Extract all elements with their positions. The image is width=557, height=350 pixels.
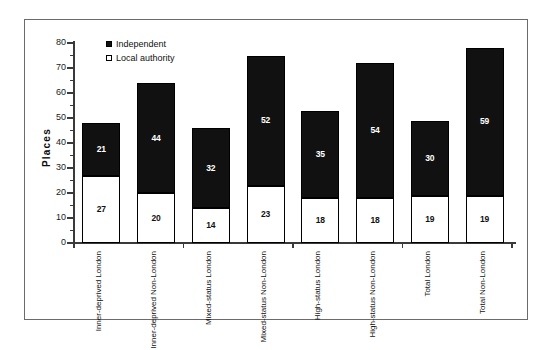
x-axis-label-line: London — [423, 250, 432, 279]
y-tick-major — [67, 67, 74, 69]
x-axis-label-line: London — [94, 250, 103, 279]
bar-segment-independent[interactable]: 54 — [356, 63, 394, 198]
x-axis-label: Mixed-statusLondon — [204, 250, 218, 320]
bar-value-label: 30 — [425, 154, 434, 163]
bar-segment-independent[interactable]: 30 — [411, 121, 449, 196]
y-tick-label: 80 — [42, 38, 66, 47]
bar-group[interactable]: 1835 — [301, 111, 339, 244]
x-axis-label-line: Non-London — [149, 250, 158, 296]
y-tick-major — [67, 92, 74, 94]
x-tick — [73, 243, 75, 248]
x-tick — [183, 243, 185, 248]
bar-value-label: 59 — [480, 117, 489, 126]
x-tick — [292, 243, 294, 248]
x-axis-label: High-statusNon-London — [368, 250, 382, 320]
bar-segment-local-authority[interactable]: 19 — [466, 196, 504, 244]
y-tick-label-wrap: 10 — [38, 213, 66, 223]
y-tick-label: 60 — [42, 88, 66, 97]
x-axis-label-line: London — [204, 250, 213, 279]
y-tick-label: 30 — [42, 163, 66, 172]
x-axis-label: High-statusLondon — [313, 250, 327, 320]
bar-segment-local-authority[interactable]: 18 — [356, 198, 394, 243]
y-tick-label: 0 — [42, 238, 66, 247]
bar-group[interactable]: 2352 — [247, 56, 285, 244]
bar-segment-local-authority[interactable]: 27 — [82, 176, 120, 244]
bar-group[interactable]: 2044 — [137, 83, 175, 243]
x-axis-label-line: Total — [478, 296, 487, 315]
x-axis-label-line: Mixed-status — [259, 296, 268, 343]
x-axis-label-line: High-status — [368, 296, 377, 338]
bar-value-label: 27 — [97, 205, 106, 214]
bar-value-label: 44 — [151, 134, 160, 143]
bar-group[interactable]: 2721 — [82, 123, 120, 243]
x-axis-label-line: Inner-deprived — [94, 279, 103, 333]
x-axis-label: Inner-deprivedLondon — [94, 250, 108, 320]
y-tick-label: 50 — [42, 113, 66, 122]
bar-value-label: 54 — [370, 126, 379, 135]
x-axis-label: Inner-deprivedNon-London — [149, 250, 163, 320]
x-axis-label: Mixed-statusNon-London — [259, 250, 273, 320]
bar-value-label: 20 — [151, 214, 160, 223]
plot-area: 27212044143223521835185419301959 — [74, 43, 512, 243]
y-tick-major — [67, 142, 74, 144]
y-tick-label-wrap: 0 — [38, 238, 66, 248]
y-tick-major — [67, 192, 74, 194]
bar-group[interactable]: 1959 — [466, 48, 504, 243]
y-tick-label: 20 — [42, 188, 66, 197]
x-axis-label: TotalNon-London — [478, 250, 492, 320]
y-tick-label-wrap: 40 — [38, 138, 66, 148]
x-axis-label-line: Total — [423, 279, 432, 298]
x-tick — [402, 243, 404, 248]
y-tick-label-wrap: 80 — [38, 38, 66, 48]
bar-segment-local-authority[interactable]: 19 — [411, 196, 449, 244]
x-axis-label-line: Non-London — [478, 250, 487, 296]
bar-value-label: 19 — [480, 215, 489, 224]
bar-value-label: 19 — [425, 215, 434, 224]
y-tick-label-wrap: 70 — [38, 63, 66, 73]
x-axis-label-line: High-status — [313, 279, 322, 321]
bar-segment-local-authority[interactable]: 20 — [137, 193, 175, 243]
y-tick-label-wrap: 50 — [38, 113, 66, 123]
bar-value-label: 35 — [316, 150, 325, 159]
bar-value-label: 32 — [206, 164, 215, 173]
y-tick-label: 40 — [42, 138, 66, 147]
x-axis-label-line: Non-London — [368, 250, 377, 296]
bar-value-label: 52 — [261, 116, 270, 125]
bar-value-label: 23 — [261, 210, 270, 219]
x-axis-label-line: Mixed-status — [204, 279, 213, 326]
bar-value-label: 18 — [370, 216, 379, 225]
bar-value-label: 18 — [316, 216, 325, 225]
bar-group[interactable]: 1432 — [192, 128, 230, 243]
bar-group[interactable]: 1854 — [356, 63, 394, 243]
y-tick-label-wrap: 30 — [38, 163, 66, 173]
x-tick — [511, 243, 513, 248]
bar-segment-independent[interactable]: 59 — [466, 48, 504, 196]
y-tick-major — [67, 42, 74, 44]
bar-segment-local-authority[interactable]: 18 — [301, 198, 339, 243]
bar-value-label: 14 — [206, 221, 215, 230]
bar-value-label: 21 — [97, 145, 106, 154]
y-tick-label-wrap: 20 — [38, 188, 66, 198]
bar-group[interactable]: 1930 — [411, 121, 449, 244]
bar-segment-independent[interactable]: 52 — [247, 56, 285, 186]
x-axis-label-line: London — [313, 250, 322, 279]
bar-segment-local-authority[interactable]: 23 — [247, 186, 285, 244]
bar-segment-local-authority[interactable]: 14 — [192, 208, 230, 243]
y-tick-major — [67, 217, 74, 219]
y-tick-label: 10 — [42, 213, 66, 222]
bar-segment-independent[interactable]: 21 — [82, 123, 120, 176]
bar-segment-independent[interactable]: 44 — [137, 83, 175, 193]
bar-segment-independent[interactable]: 35 — [301, 111, 339, 199]
y-tick-major — [67, 167, 74, 169]
x-axis-label-line: Non-London — [259, 250, 268, 296]
x-axis-label-line: Inner-deprived — [149, 296, 158, 350]
y-tick-major — [67, 117, 74, 119]
bar-segment-independent[interactable]: 32 — [192, 128, 230, 208]
x-axis-label: TotalLondon — [423, 250, 437, 320]
y-tick-label-wrap: 60 — [38, 88, 66, 98]
y-tick-label: 70 — [42, 63, 66, 72]
